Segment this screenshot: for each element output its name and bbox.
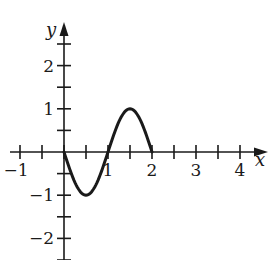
y-tick-label: −2 [29,228,54,248]
y-tick-label: −1 [29,185,54,205]
x-tick-label: 4 [235,160,246,180]
y-axis-label: y [45,19,57,40]
y-tick-label: 1 [43,99,54,119]
x-tick-label: 3 [191,160,202,180]
function-graph: −1123421−1−2 x y [0,0,273,260]
y-axis-arrow-icon [60,22,69,36]
y-tick-label: 2 [43,56,54,76]
x-tick-label: 2 [147,160,158,180]
x-axis-label: x [255,149,265,170]
x-tick-label: −1 [3,160,28,180]
